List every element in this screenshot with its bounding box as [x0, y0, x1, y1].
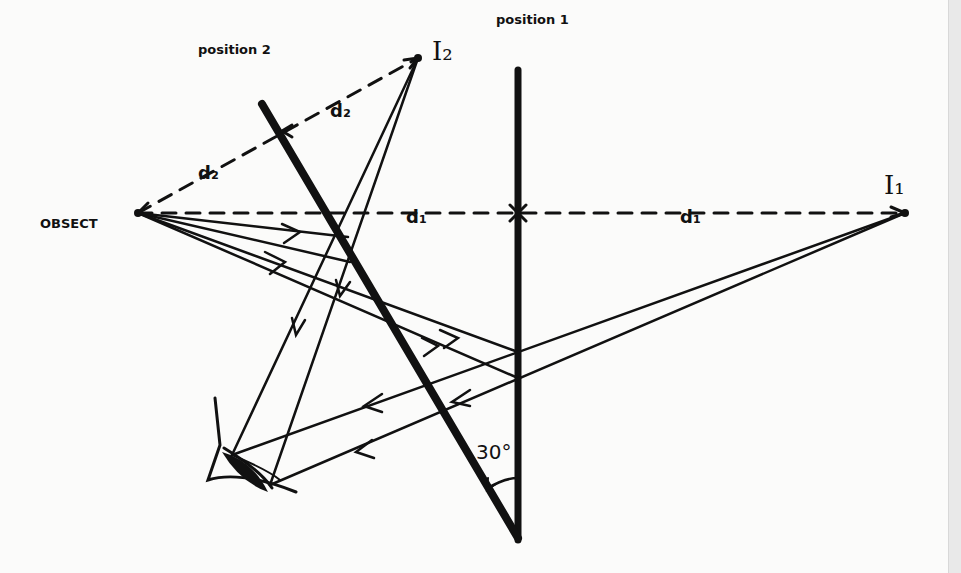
mirror-rotation-diagram: OBSECT position 1 position 2 I₂ I₁ d₁ d₁…	[0, 0, 961, 573]
diagram-drawing	[0, 0, 961, 573]
angle-label: 30°	[476, 440, 511, 464]
image-2-label: I₂	[432, 36, 453, 66]
object-label: OBSECT	[40, 216, 98, 231]
d2-lower-label: d₂	[198, 162, 219, 183]
d1-left-label: d₁	[406, 206, 427, 227]
position-1-label: position 1	[496, 12, 569, 27]
eye-pupil	[222, 452, 268, 492]
position-2-label: position 2	[198, 42, 271, 57]
d1-right-label: d₁	[680, 206, 701, 227]
image-1-label: I₁	[884, 170, 905, 200]
d2-upper-label: d₂	[330, 100, 351, 121]
